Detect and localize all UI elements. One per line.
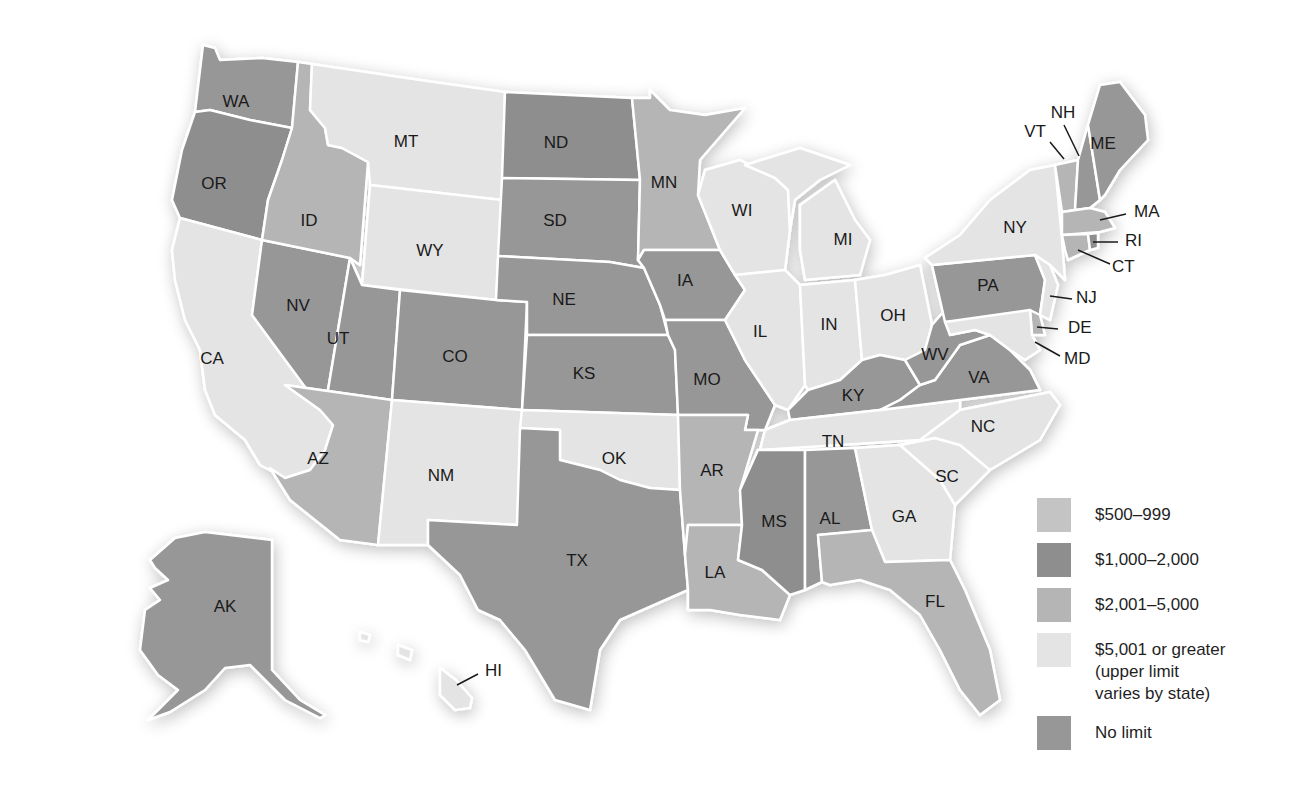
label-in: IN (821, 315, 838, 334)
label-mi: MI (834, 230, 853, 249)
label-ky: KY (842, 386, 865, 405)
state-hi (360, 632, 472, 710)
label-wy: WY (416, 241, 443, 260)
label-fl: FL (925, 592, 945, 611)
label-wv: WV (921, 345, 949, 364)
state-sd (498, 178, 644, 268)
label-ia: IA (677, 271, 694, 290)
label-or: OR (201, 174, 227, 193)
legend-item-1000-2000: $1,000–2,000 (1037, 543, 1287, 577)
label-sc: SC (935, 467, 959, 486)
label-nc: NC (971, 417, 996, 436)
legend-label: $1,000–2,000 (1095, 543, 1199, 571)
label-va: VA (968, 368, 990, 387)
label-la: LA (705, 563, 726, 582)
label-az: AZ (307, 449, 329, 468)
state-nd (502, 92, 640, 180)
leader-ct (1078, 250, 1110, 264)
label-pa: PA (977, 276, 999, 295)
label-tx: TX (566, 551, 588, 570)
label-al: AL (820, 509, 841, 528)
label-ar: AR (700, 461, 724, 480)
label-il: IL (753, 322, 767, 341)
legend-swatch (1037, 543, 1071, 577)
label-ks: KS (573, 364, 596, 383)
label-nj: NJ (1076, 288, 1097, 307)
legend-swatch (1037, 633, 1071, 667)
label-nm: NM (428, 466, 454, 485)
label-ri: RI (1125, 231, 1142, 250)
label-mo: MO (693, 370, 720, 389)
label-de: DE (1068, 318, 1092, 337)
label-nd: ND (544, 133, 569, 152)
legend-item-5001-plus: $5,001 or greater (upper limit varies by… (1037, 633, 1287, 705)
label-hi: HI (485, 661, 502, 680)
state-ak (140, 532, 325, 720)
label-oh: OH (880, 306, 906, 325)
legend-label: No limit (1095, 716, 1152, 744)
leader-nh (1064, 125, 1079, 156)
label-ok: OK (602, 449, 627, 468)
label-md: MD (1064, 349, 1090, 368)
label-me: ME (1090, 134, 1116, 153)
legend-swatch (1037, 498, 1071, 532)
label-nv: NV (286, 296, 310, 315)
label-sd: SD (543, 211, 567, 230)
label-ga: GA (892, 507, 917, 526)
label-tn: TN (822, 432, 845, 451)
legend-label: $2,001–5,000 (1095, 588, 1199, 616)
label-id: ID (301, 211, 318, 230)
label-mt: MT (394, 132, 419, 151)
legend-item-no-limit: No limit (1037, 716, 1287, 750)
state-ct (1062, 234, 1090, 260)
label-mn: MN (651, 173, 677, 192)
label-wi: WI (732, 201, 753, 220)
legend: $500–999 $1,000–2,000 $2,001–5,000 $5,00… (1037, 498, 1287, 761)
legend-label: $5,001 or greater (upper limit varies by… (1095, 633, 1225, 705)
label-vt: VT (1024, 122, 1046, 141)
label-nh: NH (1051, 103, 1076, 122)
leader-hi (457, 674, 478, 685)
label-ak: AK (214, 597, 237, 616)
label-ms: MS (761, 512, 787, 531)
state-ma (1062, 208, 1115, 235)
legend-label: $500–999 (1095, 498, 1171, 526)
legend-swatch (1037, 588, 1071, 622)
state-ks (522, 335, 678, 415)
legend-item-2001-5000: $2,001–5,000 (1037, 588, 1287, 622)
label-ne: NE (552, 290, 576, 309)
legend-swatch (1037, 716, 1071, 750)
label-co: CO (442, 347, 468, 366)
label-ny: NY (1003, 218, 1027, 237)
label-ma: MA (1134, 202, 1160, 221)
label-ct: CT (1112, 257, 1135, 276)
label-wa: WA (223, 92, 250, 111)
label-ut: UT (327, 329, 350, 348)
legend-item-500-999: $500–999 (1037, 498, 1287, 532)
leader-vt (1050, 142, 1064, 159)
label-ca: CA (200, 349, 224, 368)
